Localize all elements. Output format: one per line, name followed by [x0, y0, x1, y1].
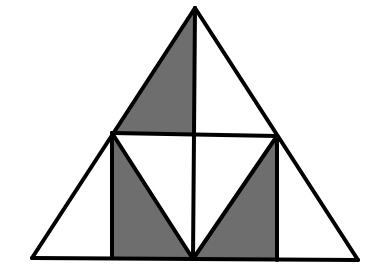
center-vertical: [193, 8, 195, 259]
diagram-lines: [32, 8, 358, 260]
triangle-diagram: [0, 0, 379, 273]
